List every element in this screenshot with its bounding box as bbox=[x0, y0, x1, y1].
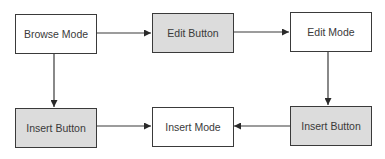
node-browse-mode: Browse Mode bbox=[15, 14, 97, 54]
flowchart-diagram: Browse Mode Edit Button Edit Mode Insert… bbox=[0, 0, 385, 159]
node-insert-button-left: Insert Button bbox=[15, 108, 97, 148]
node-label: Insert Button bbox=[26, 122, 86, 134]
node-label: Insert Mode bbox=[165, 121, 220, 133]
node-edit-button: Edit Button bbox=[152, 13, 234, 53]
node-edit-mode: Edit Mode bbox=[290, 12, 372, 52]
node-insert-mode: Insert Mode bbox=[152, 107, 234, 147]
node-label: Insert Button bbox=[301, 120, 361, 132]
node-label: Browse Mode bbox=[24, 28, 88, 40]
node-insert-button-right: Insert Button bbox=[290, 106, 372, 146]
node-label: Edit Mode bbox=[307, 26, 354, 38]
node-label: Edit Button bbox=[167, 27, 218, 39]
